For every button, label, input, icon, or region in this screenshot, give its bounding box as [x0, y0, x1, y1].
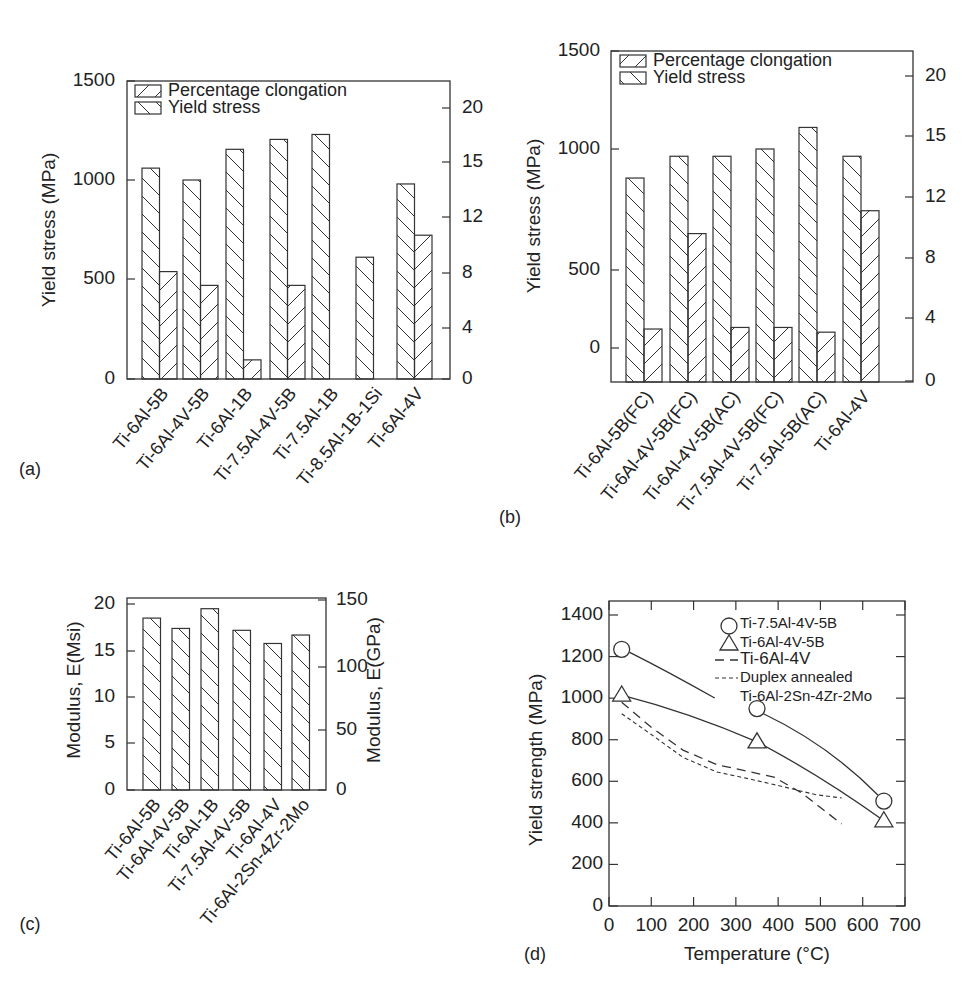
y-tick-label: 1000 — [558, 137, 600, 158]
bar-modulus — [264, 643, 282, 790]
bar-percentage-clongation — [688, 234, 706, 382]
y-tick-label: 0 — [589, 336, 600, 357]
x-tick-label: 200 — [678, 914, 710, 935]
y-tick-label: 0 — [104, 367, 115, 388]
panel-b-chart: 050010001500048121520Yield stress (MPa)T… — [499, 39, 946, 527]
legend-label: Yield stress — [168, 97, 260, 117]
triangle-marker — [875, 812, 893, 827]
bar-modulus — [233, 630, 251, 790]
bar-percentage-clongation — [817, 332, 835, 382]
bar-yield-stress — [397, 184, 415, 379]
y-tick-label: 5 — [104, 731, 115, 752]
figure-canvas: 050010001500048121520Yield stress (MPa)T… — [0, 0, 973, 1008]
panel-label: (a) — [19, 459, 41, 479]
bar-yield-stress — [142, 168, 160, 379]
x-tick-label: 400 — [762, 914, 794, 935]
bar-yield-stress — [183, 180, 201, 379]
bar-percentage-clongation — [731, 327, 749, 382]
bar-modulus — [143, 618, 161, 790]
panel-label: (c) — [20, 914, 41, 934]
circle-marker — [614, 641, 630, 657]
y2-tick-label: 50 — [336, 718, 357, 739]
series-line — [630, 652, 715, 698]
y-tick-label: 800 — [571, 728, 603, 749]
y2-axis-label: Modulus, E(GPa) — [363, 617, 384, 763]
circle-marker — [876, 793, 892, 809]
bar-percentage-clongation — [644, 329, 662, 382]
y2-tick-label: 12 — [925, 185, 946, 206]
y2-tick-label: 150 — [336, 588, 368, 609]
x-tick-label: 0 — [604, 914, 615, 935]
y2-tick-label: 15 — [462, 150, 483, 171]
bar-modulus — [201, 609, 219, 790]
y2-tick-label: 15 — [925, 124, 946, 145]
y-tick-label: 400 — [571, 811, 603, 832]
y2-tick-label: 0 — [925, 369, 936, 390]
series-line — [622, 702, 842, 824]
y-tick-label: 20 — [94, 592, 115, 613]
y-tick-label: 1000 — [73, 168, 115, 189]
bar-yield-stress — [312, 134, 330, 379]
legend-label: Ti-6Al-4V-5B — [740, 633, 824, 650]
y-tick-label: 0 — [104, 778, 115, 799]
bar-percentage-clongation — [288, 285, 306, 379]
bar-percentage-clongation — [861, 211, 879, 382]
bar-percentage-clongation — [244, 360, 262, 379]
x-tick-label: 300 — [720, 914, 752, 935]
bar-yield-stress — [713, 156, 731, 382]
y2-tick-label: 8 — [462, 261, 473, 282]
legend-label: Ti-6Al-4V — [740, 649, 811, 668]
y2-tick-label: 0 — [462, 367, 473, 388]
y-tick-label: 600 — [571, 769, 603, 790]
y2-tick-label: 4 — [462, 316, 473, 337]
y-tick-label: 200 — [571, 852, 603, 873]
x-tick-label: 500 — [805, 914, 837, 935]
legend-label: Ti-7.5Al-4V-5B — [740, 614, 837, 631]
y-tick-label: 1200 — [561, 645, 603, 666]
y-tick-label: 500 — [568, 258, 600, 279]
bar-yield-stress — [843, 156, 861, 382]
bar-percentage-clongation — [774, 327, 792, 382]
y-tick-label: 1400 — [561, 603, 603, 624]
bar-modulus — [172, 628, 190, 790]
y2-tick-label: 8 — [925, 246, 936, 267]
bar-yield-stress — [799, 127, 817, 382]
y-axis-label: Yield stress (MPa) — [523, 139, 544, 294]
panel-d-chart: 0100200300400500600700020040060080010001… — [524, 601, 921, 964]
legend-label: Yield stress — [653, 67, 745, 87]
y-tick-label: 0 — [592, 894, 603, 915]
bar-yield-stress — [670, 156, 688, 382]
legend-swatch — [620, 55, 646, 67]
bar-percentage-clongation — [160, 272, 178, 379]
legend-label: Ti-6Al-2Sn-4Zr-2Mo — [740, 687, 872, 704]
series-line — [622, 714, 842, 798]
bar-yield-stress — [356, 257, 374, 379]
y2-tick-label: 12 — [462, 205, 483, 226]
bar-percentage-clongation — [201, 285, 219, 379]
x-tick-label: 100 — [635, 914, 667, 935]
y-axis-label: Yield stress (MPa) — [38, 153, 59, 308]
y-tick-label: 10 — [94, 685, 115, 706]
y-tick-label: 1000 — [561, 686, 603, 707]
bar-yield-stress — [626, 178, 644, 382]
bar-yield-stress — [270, 139, 288, 379]
y-axis-label: Yield strength (MPa) — [525, 674, 546, 846]
y-tick-label: 1500 — [558, 39, 600, 60]
x-tick-label: 600 — [847, 914, 879, 935]
y-tick-label: 500 — [83, 267, 115, 288]
y2-tick-label: 20 — [462, 96, 483, 117]
x-tick-label: 700 — [889, 914, 921, 935]
triangle-marker — [748, 733, 766, 748]
bar-percentage-clongation — [415, 235, 433, 379]
legend-swatch — [620, 72, 646, 84]
legend-label: Duplex annealed — [740, 668, 853, 685]
legend-triangle-icon — [720, 635, 738, 650]
y2-tick-label: 20 — [925, 64, 946, 85]
y-tick-label: 15 — [94, 639, 115, 660]
y2-tick-label: 4 — [925, 306, 936, 327]
y2-tick-label: 0 — [336, 778, 347, 799]
y-axis-label: Modulus, E(Msi) — [63, 621, 84, 758]
legend-circle-icon — [721, 618, 737, 634]
bar-yield-stress — [226, 149, 244, 379]
figure: 050010001500048121520Yield stress (MPa)T… — [0, 0, 973, 1008]
